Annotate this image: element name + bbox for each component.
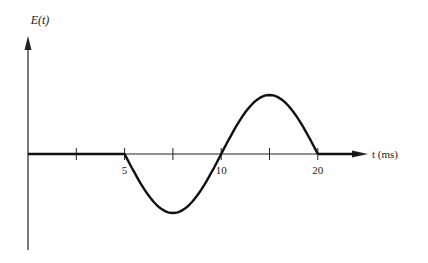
x-tick-label: 20 (312, 164, 324, 176)
y-axis-arrow (25, 36, 32, 50)
x-axis-label: t (ms) (372, 148, 398, 161)
waveform-diagram: 51020E(t)t (ms) (0, 0, 428, 263)
x-tick-label: 5 (122, 164, 128, 176)
y-axis-label: E(t) (30, 13, 50, 27)
x-tick-label: 10 (216, 164, 228, 176)
